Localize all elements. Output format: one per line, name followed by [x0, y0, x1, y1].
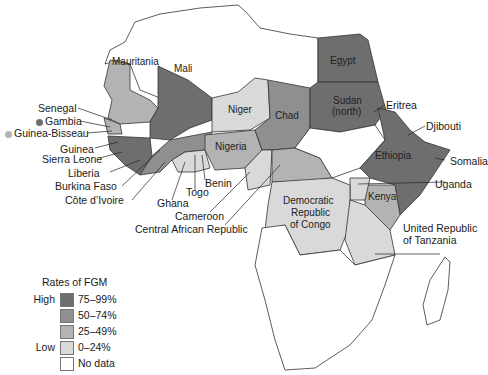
legend-row-25-49: 25–49% — [0, 325, 130, 339]
label-mauritania: Mauritania — [112, 56, 159, 68]
legend-row-0-24: Low 0–24% — [0, 341, 130, 355]
callout-uganda: Uganda — [435, 178, 472, 190]
callout-djibouti: Djibouti — [426, 120, 461, 132]
label-egypt: Egypt — [330, 55, 356, 67]
label-ethiopia: Ethiopia — [375, 150, 411, 162]
legend-swatch — [60, 325, 74, 339]
legend-swatch — [60, 293, 74, 307]
label-drc-3: of Congo — [290, 219, 331, 231]
label-kenya: Kenya — [368, 191, 396, 203]
callout-cameroon: Cameroon — [175, 210, 224, 222]
guinea-bisseau-dot-icon — [5, 131, 12, 138]
callout-eritrea: Eritrea — [386, 99, 417, 111]
callout-ghana: Ghana — [157, 197, 189, 209]
label-nigeria: Nigeria — [215, 141, 247, 153]
callout-sierra-leone: Sierra Leone — [42, 153, 102, 165]
label-drc-2: Republic — [291, 207, 330, 219]
legend-low-label: Low — [0, 341, 55, 353]
legend-row-75-99: High 75–99% — [0, 293, 130, 307]
legend-row-50-74: 50–74% — [0, 309, 130, 323]
legend-swatch — [60, 309, 74, 323]
callout-guinea-bisseau: Guinea-Bisseau — [5, 127, 89, 139]
legend-title: Rates of FGM — [42, 276, 107, 288]
label-chad: Chad — [275, 110, 299, 122]
label-mali: Mali — [174, 63, 192, 75]
callout-cote-divoire: Côte d’Ivoire — [65, 194, 124, 206]
callout-gambia: Gambia — [36, 115, 82, 127]
callout-liberia: Liberia — [68, 167, 100, 179]
label-niger: Niger — [228, 104, 252, 116]
label-drc-1: Democratic — [283, 195, 334, 207]
legend-swatch — [60, 341, 74, 355]
legend-high-label: High — [0, 293, 55, 305]
callout-tanzania-1: United Republic — [403, 222, 477, 234]
callout-burkina-faso: Burkina Faso — [55, 180, 117, 192]
legend-row-no-data: No data — [0, 357, 130, 371]
callout-tanzania-2: of Tanzania — [403, 234, 457, 246]
label-sudan-north: (north) — [332, 106, 361, 118]
callout-senegal: Senegal — [38, 102, 77, 114]
callout-somalia: Somalia — [450, 155, 488, 167]
legend-swatch — [60, 357, 74, 371]
gambia-dot-icon — [36, 119, 43, 126]
callout-car: Central African Republic — [135, 223, 248, 235]
region-madagascar — [423, 257, 450, 325]
callout-benin: Benin — [205, 177, 232, 189]
